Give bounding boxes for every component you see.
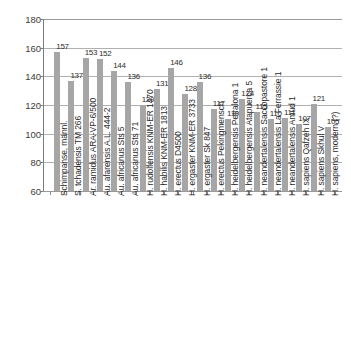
x-axis-label: H. ergaster KNM-ER 3733 (188, 99, 197, 196)
x-axis-label: H. neandertalensis Saccopastore 1 (260, 67, 269, 196)
y-tick-label: 60 (0, 186, 41, 197)
bar-value-label: 146 (170, 58, 182, 67)
bar-value-label: 157 (56, 42, 68, 51)
bar-value-label: 136 (199, 72, 211, 81)
bar-value-label: 136 (127, 72, 139, 81)
x-axis-label: H. sapiens, modern (?) (331, 112, 340, 196)
x-axis-label: H. sapiens Skhul V (317, 126, 326, 196)
x-axis-label: H. neandertalensis Amud 1 (288, 96, 297, 196)
y-tick-label: 160 (0, 42, 41, 53)
x-axis-label: H. heidelbergensis Atapuerca 5 (245, 81, 254, 196)
y-axis-line (43, 19, 44, 192)
x-axis-label: H. erectus D4500 (174, 131, 183, 196)
y-tick-label: 180 (0, 14, 41, 25)
bar-value-label: 153 (85, 48, 97, 57)
x-axis-labels: Schimpanse, männl.S. tchadensis TM 266Ar… (43, 196, 342, 361)
y-tick-label: 140 (0, 71, 41, 82)
x-axis-label: H. erectus Pekingmensch (217, 101, 226, 196)
x-axis-label: H. habilis KNM-ER 1813 (160, 106, 169, 196)
y-tick-label: 80 (0, 157, 41, 168)
y-tick-label: 120 (0, 100, 41, 111)
y-tick-label: 100 (0, 128, 41, 139)
x-axis-label: H. rudolfensis KNM-ER 1470 (146, 89, 155, 196)
bar-value-label: 152 (99, 49, 111, 58)
x-axis-label: Au. africanus Sts 71 (131, 122, 140, 196)
x-axis-label: H. ergaster Sk 847 (203, 127, 212, 196)
x-axis-label: Au. afarensis A.L. 444-2 (103, 108, 112, 196)
bar-value-label: 144 (113, 61, 125, 70)
x-tick-mark (50, 192, 51, 195)
x-axis-label: H. neandertalensis La Ferrassie 1 (274, 72, 283, 196)
x-axis-label: Ar. ramidus ARA-VP-6/500 (89, 98, 98, 196)
bar-chart: 1801601401201008060 15713715315214413612… (0, 0, 351, 361)
x-axis-label: H. heidelbergensis Petralona 1 (231, 83, 240, 196)
x-axis-label: S. tchadensis TM 266 (74, 116, 83, 196)
bar-value-label: 121 (313, 94, 325, 103)
x-axis-label: Schimpanse, männl. (60, 121, 69, 196)
x-axis-label: Au. africanus Sts 5 (117, 127, 126, 196)
x-axis-label: H. sapiens Qafzeh IX (302, 118, 311, 196)
